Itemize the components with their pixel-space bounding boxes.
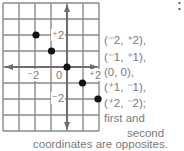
pair-1: (⁻2, ⁺2), — [104, 34, 146, 47]
caption-line-3: coordinates are opposites. — [33, 138, 168, 151]
origin-label: 0 — [55, 69, 63, 81]
pair-2: (⁻1, ⁺1), — [104, 51, 146, 64]
data-point — [32, 31, 39, 38]
arrow-up-icon — [64, 4, 70, 12]
edge-dots: •• — [178, 0, 181, 12]
data-point — [63, 63, 70, 70]
data-point — [94, 95, 101, 102]
data-point — [48, 47, 55, 54]
arrow-left-icon — [5, 64, 13, 70]
x-tick-label-pos2: ⁺2 — [88, 69, 102, 81]
pair-4: (⁺1, ⁻1), — [104, 81, 146, 94]
caption-line-1: first and — [104, 112, 145, 125]
pair-5: (⁺2, ⁻2); — [104, 97, 146, 110]
y-tick-label-neg2: ⁻2 — [51, 92, 65, 104]
data-point — [79, 79, 86, 86]
arrow-down-icon — [64, 122, 70, 130]
y-tick-label-pos2: ⁺2 — [51, 29, 65, 41]
x-tick-label-neg2: ⁻2 — [26, 69, 40, 81]
pair-3: (0, 0), — [104, 66, 134, 79]
